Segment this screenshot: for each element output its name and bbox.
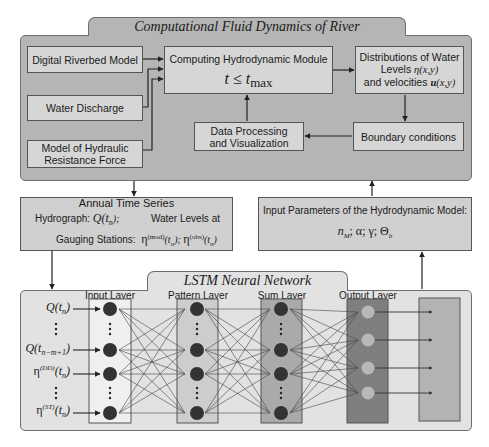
pattern-layer-rect <box>177 299 218 423</box>
cfd-arrows <box>52 59 422 289</box>
network-connections <box>119 309 358 413</box>
diagram-graphics <box>0 0 489 447</box>
output-params-rect <box>419 298 460 421</box>
